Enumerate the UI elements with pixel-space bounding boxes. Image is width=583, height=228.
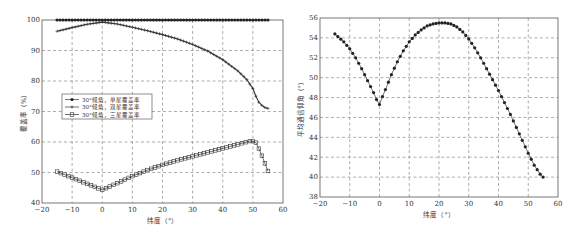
data-point-dot (212, 18, 215, 21)
x-tick-label: 60 (554, 200, 563, 208)
data-point-dot (536, 168, 539, 171)
data-point-dot (512, 119, 515, 122)
data-point-dot (479, 56, 482, 59)
data-point-plus (95, 21, 98, 24)
data-point-dot (485, 67, 488, 70)
data-point-dot (500, 95, 503, 98)
data-point-plus (203, 48, 206, 51)
data-point-dot (65, 18, 68, 21)
data-point-dot (197, 18, 200, 21)
x-tick-label: 40 (494, 200, 503, 208)
data-point-dot (452, 24, 455, 27)
data-point-dot (164, 18, 167, 21)
coverage-rate-chart: −20−100102030405060405060708090100纬度（°）覆… (0, 0, 292, 228)
data-point-plus (58, 29, 61, 32)
data-point-plus (119, 23, 122, 26)
data-point-plus (197, 45, 200, 48)
data-point-dot (375, 98, 378, 101)
data-point-dot (446, 22, 449, 25)
x-axis-ticks: −20−100102030405060 (313, 200, 563, 208)
data-point-dot (239, 18, 242, 21)
data-point-dot (491, 78, 494, 81)
data-point-dot (266, 18, 269, 21)
data-point-plus (61, 28, 64, 31)
data-point-dot (263, 18, 266, 21)
data-point-dot (89, 18, 92, 21)
data-point-plus (86, 23, 89, 26)
data-point-plus (77, 25, 80, 28)
data-point-dot (524, 145, 527, 148)
data-point-square (55, 170, 59, 174)
data-point-dot (431, 22, 434, 25)
data-point-plus (152, 31, 155, 34)
data-point-dot (372, 91, 375, 94)
data-point-dot (527, 152, 530, 155)
x-tick-label: 10 (128, 206, 137, 214)
data-point-plus (200, 47, 203, 50)
data-point-dot (206, 18, 209, 21)
data-point-dot (515, 126, 518, 129)
data-point-plus (161, 33, 164, 36)
legend-label: 30°倾角，单星覆盖率 (82, 96, 140, 104)
data-point-dot (420, 28, 423, 31)
data-point-plus (71, 26, 74, 29)
data-point-dot (482, 62, 485, 65)
data-point-dot (125, 18, 128, 21)
y-tick-label: 56 (309, 14, 318, 22)
data-point-dot (95, 18, 98, 21)
data-point-dot (61, 18, 64, 21)
data-point-dot (203, 18, 206, 21)
data-point-dot (476, 51, 479, 54)
data-point-dot (360, 67, 363, 70)
data-point-plus (155, 31, 158, 34)
data-point-dot (405, 45, 408, 48)
data-point-plus (164, 34, 167, 37)
data-point-dot (426, 24, 429, 27)
data-point-dot (236, 18, 239, 21)
data-point-dot (449, 22, 452, 25)
data-point-dot (390, 73, 393, 76)
data-point-plus (110, 22, 113, 25)
data-point-dot (509, 113, 512, 116)
data-point-plus (98, 21, 101, 24)
data-point-dot (224, 18, 227, 21)
data-point-dot (134, 18, 137, 21)
data-point-dot (77, 18, 80, 21)
y-tick-label: 40 (309, 173, 318, 181)
data-point-dot (470, 42, 473, 45)
data-point-plus (83, 23, 86, 26)
data-point-dot (92, 18, 95, 21)
data-point-plus (55, 30, 58, 33)
data-point-dot (363, 73, 366, 76)
data-point-dot (539, 173, 542, 176)
data-point-dot (71, 18, 74, 21)
data-point-plus (113, 22, 116, 25)
data-point-dot (440, 21, 443, 24)
data-point-dot (455, 25, 458, 28)
data-point-plus (170, 36, 173, 39)
data-point-dot (74, 18, 77, 21)
data-point-dot (68, 18, 71, 21)
data-point-dot (521, 139, 524, 142)
data-point-dot (200, 18, 203, 21)
data-point-dot (110, 18, 113, 21)
data-point-plus (167, 35, 170, 38)
data-point-dot (354, 56, 357, 59)
data-point-dot (191, 18, 194, 21)
data-point-dot (70, 98, 73, 101)
data-point-dot (434, 22, 437, 25)
data-point-dot (218, 18, 221, 21)
data-point-dot (86, 18, 89, 21)
y-tick-label: 70 (31, 108, 40, 116)
data-point-dot (194, 18, 197, 21)
data-point-dot (113, 18, 116, 21)
data-point-plus (194, 44, 197, 47)
data-point-dot (179, 18, 182, 21)
data-point-dot (137, 18, 140, 21)
data-point-dot (233, 18, 236, 21)
data-point-dot (342, 40, 345, 43)
y-tick-label: 100 (27, 16, 40, 24)
legend-label: 30°倾角，双星覆盖率 (82, 103, 140, 111)
data-point-dot (348, 47, 351, 50)
data-point-dot (494, 84, 497, 87)
